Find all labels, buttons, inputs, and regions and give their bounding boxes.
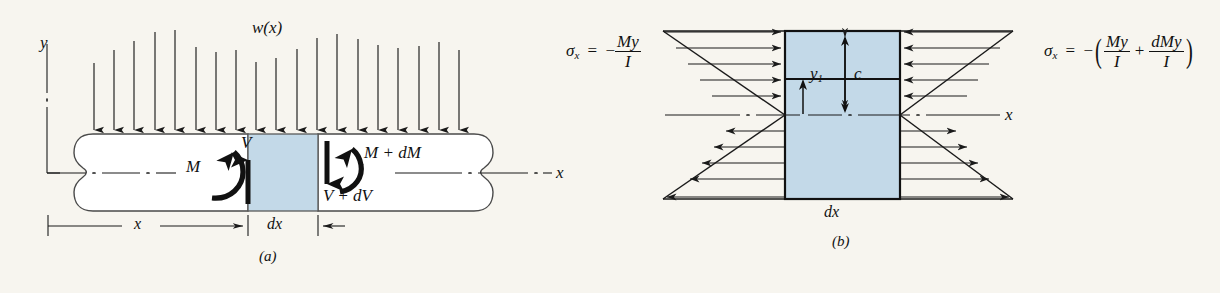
stress-arrows-right-bottom [900,131,1009,197]
fraction-my-over-i: My I [615,32,641,72]
y-axis-line [47,44,60,173]
dimension-dx-label: dx [267,215,282,233]
y1-subscript: 1 [818,72,824,84]
caption-b: (b) [832,233,850,250]
fraction2-denominator: I [1149,52,1183,72]
stress-formula-left: σx = − My I [566,32,641,72]
distributed-load-label: w(x) [252,18,282,38]
close-paren: ) [1186,35,1193,68]
sigma-subscript-right: x [1052,49,1057,61]
stress-formula-right: σx = −( My I + dMy I ) [1044,32,1195,72]
stress-arrows-left-bottom [667,131,785,197]
dimension-dx [318,215,345,236]
fraction-numerator: My [615,32,641,52]
fraction2-numerator: dMy [1149,32,1183,52]
differential-element-dx [248,134,318,211]
shear-right-label: V + dV [323,186,372,206]
sigma-subscript-left: x [574,49,579,61]
stress-arrows-right-top [904,32,1011,96]
caption-a: (a) [259,248,277,265]
y-axis-label: y [40,33,48,53]
fraction1-numerator: My [1104,32,1130,52]
dimension-x [48,215,248,236]
moment-left-label: M [186,157,200,177]
dimension-x-label: x [134,215,141,233]
stress-arrows-left-top [664,32,781,96]
y1-base: y [810,64,818,83]
fraction-dmy-over-i: dMy I [1149,32,1183,72]
minus-sign-left: − [605,41,615,60]
panel-a [47,30,552,236]
equals-sign-right: = [1066,41,1076,60]
dimension-c-label: c [854,64,862,84]
x-axis-label-b: x [1005,105,1013,125]
dimension-dx-label-b: dx [824,203,839,221]
minus-sign-right: − [1083,41,1093,60]
plus-sign: + [1135,41,1145,60]
moment-right-label: M + dM [364,143,421,163]
dimension-y1-label: y1 [810,64,823,84]
fraction1-denominator: I [1104,52,1130,72]
fraction-my-over-i-right: My I [1104,32,1130,72]
fraction-denominator: I [615,52,641,72]
panel-b [663,31,1013,199]
open-paren: ( [1095,35,1102,68]
x-axis-label-a: x [556,163,564,183]
equals-sign-left: = [588,41,598,60]
distributed-load-arrows [94,30,459,130]
shear-left-label: V [241,133,251,153]
